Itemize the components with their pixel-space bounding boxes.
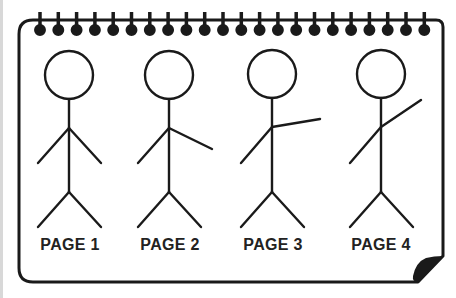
- stick-figure-page-4: [350, 50, 421, 227]
- spiral-rings: [36, 12, 429, 34]
- page-4-label: PAGE 4: [331, 236, 431, 254]
- page-3-label: PAGE 3: [223, 236, 323, 254]
- stick-figure-page-2: [138, 51, 212, 227]
- stick-figure-page-3: [241, 50, 320, 227]
- page-1-label: PAGE 1: [20, 236, 120, 254]
- page-2-label: PAGE 2: [120, 236, 220, 254]
- page-curl-icon: [413, 256, 443, 282]
- stick-figure-page-1: [38, 51, 101, 227]
